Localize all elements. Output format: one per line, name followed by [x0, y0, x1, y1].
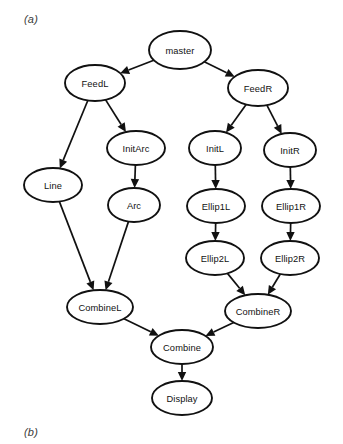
- graph-node-label: Ellip1R: [276, 202, 306, 212]
- arrowhead-icon: [131, 179, 139, 188]
- arrowhead-icon: [118, 122, 126, 132]
- graph-edge-Line-to-CombineL: [59, 202, 90, 282]
- graph-node-label: Combine: [163, 343, 201, 353]
- graph-edge-Ellip2L-to-CombineR: [227, 273, 239, 288]
- graph-edge-FeedR-to-InitL: [231, 105, 246, 126]
- graph-node-display[interactable]: Display: [152, 381, 212, 415]
- arrowhead-icon: [226, 123, 235, 133]
- graph-node-initr[interactable]: InitR: [264, 133, 316, 167]
- graph-node-ellip2l[interactable]: Ellip2L: [186, 241, 244, 275]
- graph-node-combinel[interactable]: CombineL: [67, 290, 133, 324]
- graph-node-label: master: [165, 46, 194, 56]
- graph-node-initarc[interactable]: InitArc: [107, 131, 165, 165]
- graph-node-label: Ellip2R: [275, 254, 305, 264]
- graph-node-label: CombineL: [78, 303, 121, 313]
- graph-node-label: Display: [166, 394, 197, 404]
- arrowhead-icon: [286, 180, 294, 189]
- graph-edge-FeedL-to-Line: [63, 100, 88, 160]
- graph-node-master[interactable]: master: [149, 31, 211, 69]
- dependency-graph: masterFeedLFeedRInitArcInitLInitRLineArc…: [0, 0, 343, 444]
- graph-node-label: Ellip1L: [202, 202, 231, 212]
- arrowhead-icon: [286, 232, 294, 241]
- graph-node-combine[interactable]: Combine: [151, 330, 213, 364]
- arrowhead-icon: [104, 280, 112, 290]
- graph-node-label: Ellip2L: [201, 254, 230, 264]
- graph-node-initl[interactable]: InitL: [189, 131, 241, 165]
- graph-edge-CombineL-to-Combine: [124, 319, 151, 332]
- figure-container: (a) masterFeedLFeedRInitArcInitLInitRLin…: [0, 0, 343, 444]
- graph-node-feedl[interactable]: FeedL: [65, 65, 125, 101]
- graph-node-ellip2r[interactable]: Ellip2R: [261, 241, 319, 275]
- graph-node-label: FeedL: [82, 79, 109, 89]
- graph-node-label: CombineR: [236, 307, 281, 317]
- graph-node-label: FeedR: [244, 84, 273, 94]
- graph-node-label: Line: [44, 181, 62, 191]
- arrowhead-icon: [178, 372, 186, 381]
- arrowhead-icon: [211, 180, 219, 189]
- graph-node-label: InitL: [206, 144, 224, 154]
- arrowhead-icon: [211, 232, 219, 241]
- graph-edge-master-to-FeedR: [204, 62, 226, 73]
- graph-edge-FeedL-to-InitArc: [106, 100, 122, 125]
- graph-node-arc[interactable]: Arc: [108, 188, 160, 222]
- graph-node-combiner[interactable]: CombineR: [225, 294, 291, 328]
- graph-node-line[interactable]: Line: [24, 168, 82, 202]
- graph-edge-Arc-to-CombineL: [108, 222, 128, 282]
- graph-node-label: InitArc: [122, 144, 149, 154]
- graph-node-label: Arc: [127, 201, 141, 211]
- graph-node-feedr[interactable]: FeedR: [228, 70, 288, 106]
- graph-edge-FeedR-to-InitR: [267, 105, 278, 126]
- graph-edge-master-to-FeedL: [129, 60, 154, 70]
- graph-edge-CombineR-to-Combine: [214, 323, 234, 333]
- graph-edge-Ellip2R-to-CombineR: [272, 274, 280, 287]
- graph-node-ellip1l[interactable]: Ellip1L: [187, 189, 245, 223]
- graph-node-label: InitR: [280, 146, 300, 156]
- figure-caption-b: (b): [24, 426, 38, 438]
- graph-node-ellip1r[interactable]: Ellip1R: [262, 189, 320, 223]
